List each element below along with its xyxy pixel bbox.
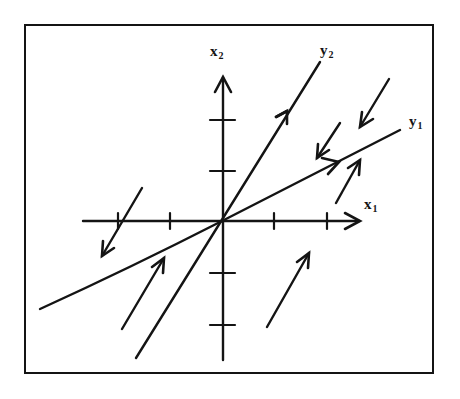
- phase-plane-diagram: [0, 0, 460, 399]
- x2-axis-label: x2: [210, 44, 224, 61]
- x2-label-sub: 2: [219, 50, 224, 61]
- trajectory-arrow-down-left-icon: [360, 79, 389, 127]
- y1-line-label: y1: [409, 114, 423, 131]
- trajectory-arrows: [102, 79, 389, 329]
- y1-label-sub: 1: [418, 120, 423, 131]
- y1-label-main: y: [409, 113, 417, 129]
- x1-label-main: x: [364, 196, 372, 212]
- x2-label-main: x: [210, 43, 218, 59]
- y2-label-main: y: [320, 42, 328, 58]
- y1-eigenline: [40, 130, 400, 309]
- x1-label-sub: 1: [373, 203, 378, 214]
- trajectory-arrow-down-left-icon: [317, 123, 340, 158]
- y2-label-sub: 2: [329, 49, 334, 60]
- y2-line-label: y2: [320, 43, 334, 60]
- y2-eigenline: [136, 62, 320, 358]
- x1-axis-label: x1: [364, 197, 378, 214]
- trajectory-arrow-up-right-icon: [336, 160, 360, 203]
- trajectory-arrow-up-right-icon: [267, 253, 309, 327]
